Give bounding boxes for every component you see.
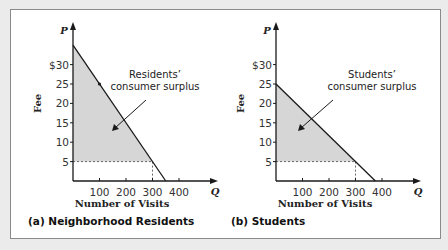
chart-canvas: PQ510152025$30100200300400Number of Visi…: [0, 0, 448, 250]
surplus-annotation-text: Residents’: [129, 69, 181, 80]
y-axis-arrow-icon: [70, 22, 76, 30]
y-tick-label: 25: [56, 78, 69, 90]
y-axis-symbol: P: [59, 25, 68, 36]
y-tick-label: 20: [259, 97, 272, 109]
y-tick-label: $30: [49, 59, 69, 71]
surplus-annotation-text: consumer surplus: [327, 81, 416, 92]
y-tick-label: 15: [56, 117, 69, 129]
y-tick-label: 5: [265, 156, 272, 168]
x-axis-symbol: Q: [414, 186, 423, 197]
x-tick-label: 100: [292, 186, 312, 198]
y-tick-label: 25: [259, 78, 272, 90]
x-tick-label: 200: [116, 186, 136, 198]
y-tick-label: 20: [56, 97, 69, 109]
panel-caption: (b) Students: [231, 215, 305, 227]
y-axis-label: Fee: [32, 94, 43, 113]
surplus-annotation-text: Students’: [348, 69, 396, 80]
x-tick-label: 400: [169, 186, 189, 198]
y-tick-label: 5: [62, 156, 69, 168]
x-tick-label: 300: [345, 186, 365, 198]
panel-caption: (a) Neighborhood Residents: [28, 215, 194, 227]
y-axis-arrow-icon: [273, 22, 279, 30]
y-tick-label: 10: [259, 136, 272, 148]
y-axis-symbol: P: [262, 25, 271, 36]
x-axis-label: Number of Visits: [278, 198, 373, 209]
y-tick-label: 15: [259, 117, 272, 129]
y-tick-label: 10: [56, 136, 69, 148]
x-axis-arrow-icon: [210, 178, 218, 184]
x-tick-label: 300: [142, 186, 162, 198]
x-tick-label: 400: [372, 186, 392, 198]
surplus-annotation-text: consumer surplus: [110, 81, 199, 92]
x-axis-arrow-icon: [413, 178, 421, 184]
x-axis-symbol: Q: [211, 186, 220, 197]
x-tick-label: 200: [319, 186, 339, 198]
y-tick-label: $30: [252, 59, 272, 71]
demand-point-marker: [98, 82, 101, 85]
y-axis-label: Fee: [235, 94, 246, 113]
x-tick-label: 100: [89, 186, 109, 198]
x-axis-label: Number of Visits: [75, 198, 170, 209]
